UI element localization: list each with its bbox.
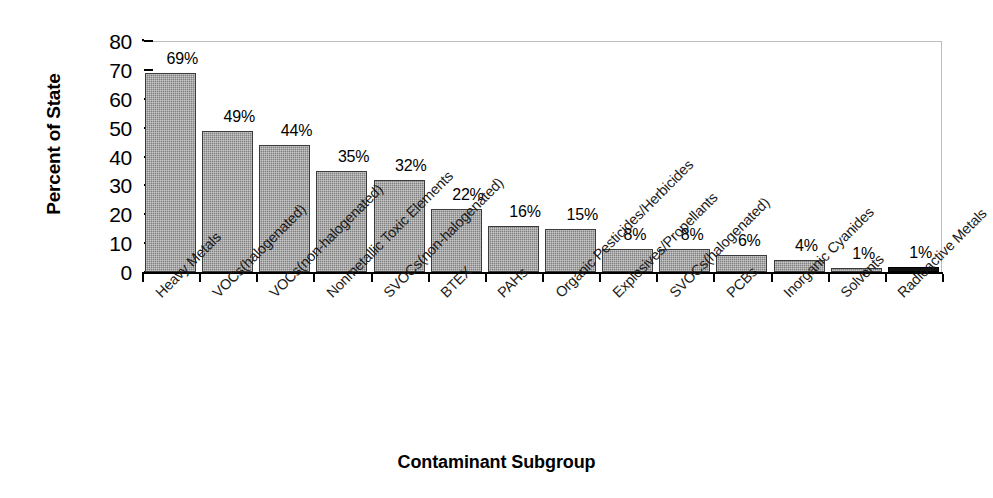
y-axis-tick-label: 40 <box>56 146 132 167</box>
y-axis-tick-label: 50 <box>56 117 132 138</box>
x-axis-tick-mark <box>771 274 773 282</box>
y-axis-tick-labels: 80706050403020100 <box>56 41 132 272</box>
x-axis-tick-mark <box>942 274 944 282</box>
x-axis-tick-mark <box>371 274 373 282</box>
y-axis-tick-label: 60 <box>56 88 132 109</box>
x-axis-title: Contaminant Subgroup <box>0 452 993 473</box>
x-axis-tick-mark <box>542 274 544 282</box>
x-axis-tick-mark <box>256 274 258 282</box>
y-axis-tick-label: 0 <box>56 262 132 283</box>
bar-0[interactable] <box>145 73 196 272</box>
y-axis-tick-label: 10 <box>56 233 132 254</box>
bar-chart-figure: Percent of State 80706050403020100 69%49… <box>0 0 993 498</box>
y-axis-tick-label: 20 <box>56 204 132 225</box>
x-axis-tick-mark <box>142 274 144 282</box>
x-axis-tick-mark <box>656 274 658 282</box>
y-axis-tick-mark <box>144 69 153 71</box>
x-axis-tick-mark <box>199 274 201 282</box>
x-axis-tick-mark <box>885 274 887 282</box>
y-axis-tick-mark <box>144 40 153 42</box>
x-axis-tick-mark <box>485 274 487 282</box>
bar-6[interactable] <box>488 226 539 272</box>
x-axis-tick-mark <box>428 274 430 282</box>
x-axis-tick-mark <box>713 274 715 282</box>
y-axis-tick-label: 70 <box>56 59 132 80</box>
x-axis-tick-mark <box>828 274 830 282</box>
x-axis-tick-mark <box>599 274 601 282</box>
y-axis-tick-label: 80 <box>56 31 132 52</box>
y-axis-tick-label: 30 <box>56 175 132 196</box>
x-axis-tick-mark <box>313 274 315 282</box>
